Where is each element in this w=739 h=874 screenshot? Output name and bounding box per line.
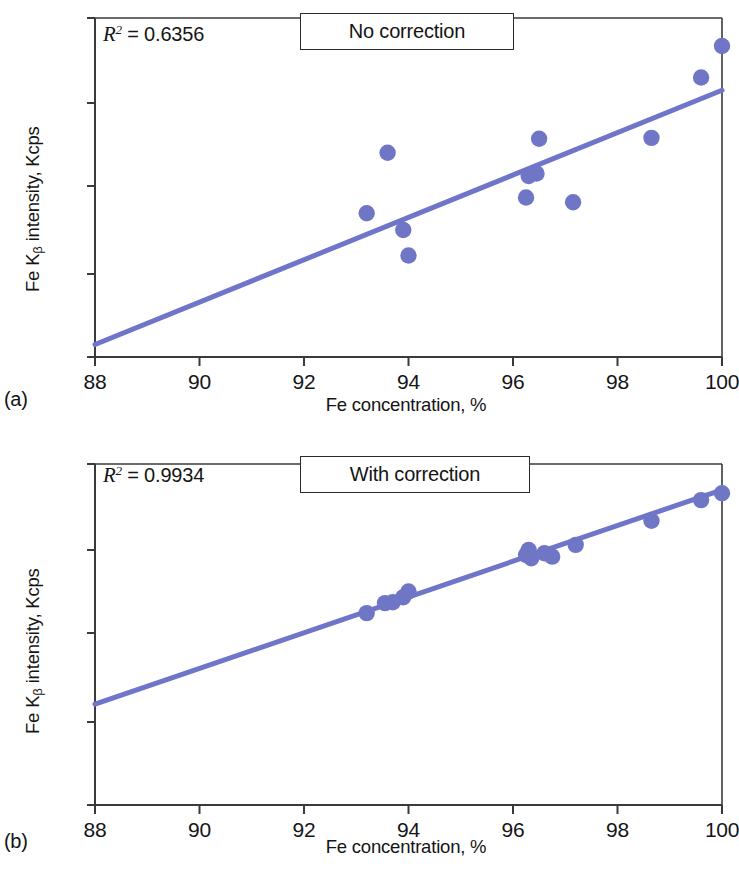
y-axis-title-subscript: β (30, 688, 45, 695)
r-squared-annotation-b: R2 = 0.9934 (103, 463, 204, 487)
panel-title-box-b: With correction (300, 456, 530, 493)
scatter-plot-b (0, 436, 739, 836)
y-axis-title-a: Fe Kβ intensity, Kcps (22, 126, 45, 292)
x-tick-label: 100 (705, 818, 739, 842)
scatter-plot-a (0, 0, 739, 400)
r-exponent: 2 (116, 463, 122, 478)
r-squared-value: = 0.9934 (127, 464, 204, 486)
panel-letter-a: (a) (4, 388, 28, 411)
x-tick-label: 98 (606, 370, 629, 394)
r-symbol: R (103, 463, 116, 486)
x-tick-label: 90 (188, 818, 211, 842)
x-tick-label: 98 (606, 818, 629, 842)
y-axis-title-b: Fe Kβ intensity, Kcps (22, 568, 45, 734)
x-tick-label: 90 (188, 370, 211, 394)
x-tick-label: 88 (84, 818, 107, 842)
panel-title-b: With correction (350, 463, 480, 486)
x-axis-title-b: Fe concentration, % (326, 836, 487, 858)
x-tick-label: 92 (293, 818, 316, 842)
plot-area-a: 420 410 400 380 360 88 90 92 94 96 98 10… (0, 0, 739, 400)
x-tick-label: 96 (502, 370, 525, 394)
x-tick-label: 88 (84, 370, 107, 394)
x-axis-title-text: Fe concentration, % (326, 836, 487, 857)
panel-title-a: No correction (349, 20, 465, 43)
x-tick-label: 96 (502, 818, 525, 842)
panel-letter-b: (b) (4, 830, 28, 853)
r-exponent: 2 (116, 22, 122, 37)
y-axis-title-pre: Fe K (22, 696, 43, 734)
panel-title-box-a: No correction (300, 13, 514, 50)
chart-panel-b: 420 410 400 380 360 88 90 92 94 96 98 10… (0, 436, 739, 874)
x-axis-title-text: Fe concentration, % (326, 394, 487, 415)
plot-area-b: 420 410 400 380 360 88 90 92 94 96 98 10… (0, 436, 739, 836)
y-axis-title-post: intensity, Kcps (22, 126, 43, 246)
r-squared-value: = 0.6356 (127, 23, 204, 45)
x-axis-title-a: Fe concentration, % (326, 394, 487, 416)
x-tick-label: 100 (705, 370, 739, 394)
r-squared-annotation-a: R2 = 0.6356 (103, 22, 204, 46)
x-tick-label: 94 (397, 370, 420, 394)
chart-panel-a: 420 410 400 380 360 88 90 92 94 96 98 10… (0, 0, 739, 438)
y-axis-title-post: intensity, Kcps (22, 568, 43, 688)
x-tick-label: 92 (293, 370, 316, 394)
y-axis-title-pre: Fe K (22, 254, 43, 292)
y-axis-title-subscript: β (30, 246, 45, 253)
r-symbol: R (103, 22, 116, 45)
